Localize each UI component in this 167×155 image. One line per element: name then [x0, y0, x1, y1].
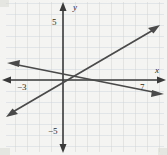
coordinate-graph: y x 5 −5 −3 7 [0, 0, 167, 155]
scan-artifact-bottom-right [158, 148, 167, 155]
y-tick-label-5: 5 [52, 18, 57, 27]
x-tick-label-7: 7 [140, 83, 145, 92]
scan-artifact-top-left [0, 0, 9, 7]
x-axis-title: x [155, 66, 159, 75]
scan-artifact-bottom-left [0, 148, 10, 155]
grid-lines [6, 2, 164, 152]
x-tick-label-neg3: −3 [17, 83, 27, 92]
y-axis-title: y [73, 3, 77, 12]
y-tick-label-neg5: −5 [48, 127, 58, 136]
graph-canvas [0, 0, 167, 155]
